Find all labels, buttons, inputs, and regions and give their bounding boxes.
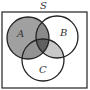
set-a-label: A — [16, 28, 24, 39]
universe-label: S — [40, 0, 47, 11]
set-c-label: C — [39, 64, 47, 75]
venn-diagram: S A B C — [0, 0, 90, 90]
set-b-label: B — [59, 27, 67, 38]
